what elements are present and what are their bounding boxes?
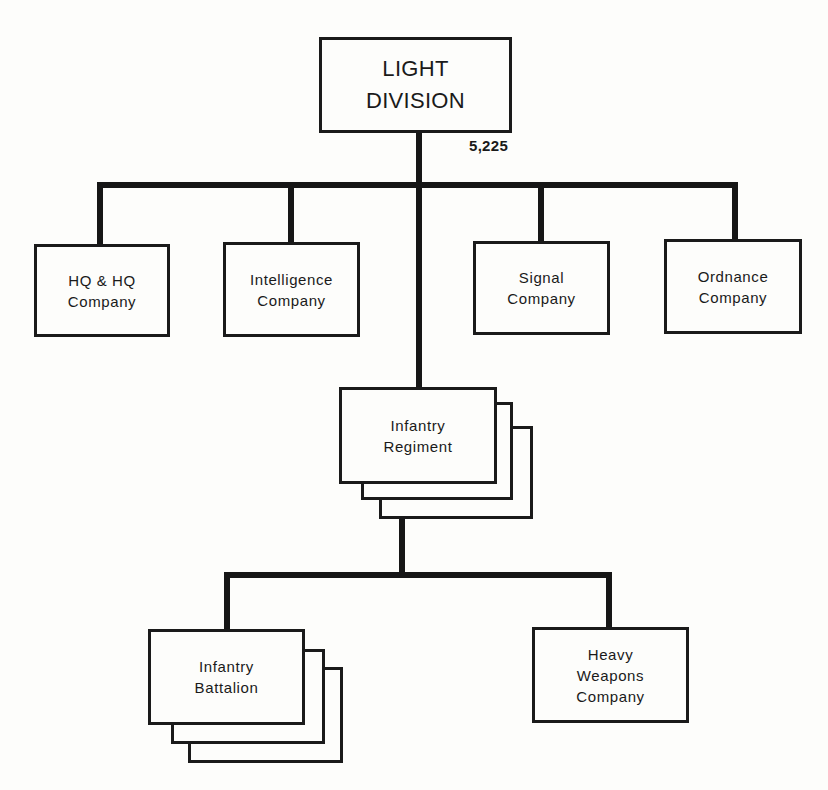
node-label: Infantry Regiment [384,415,453,457]
connector-heavy-weapons [606,572,612,629]
connector-regiment-down [399,518,405,576]
node-label: Heavy Weapons Company [576,644,644,707]
node-infantry-battalion: Infantry Battalion [148,629,305,725]
node-label: LIGHT DIVISION [366,53,465,117]
division-strength-label: 5,225 [469,137,508,154]
node-label: HQ & HQ Company [68,270,136,312]
node-hq-company: HQ & HQ Company [34,244,170,337]
node-label: Ordnance Company [698,266,769,308]
connector-top-bar [97,182,738,188]
connector-root-down [416,132,422,388]
connector-battalion [224,572,230,631]
node-label: Signal Company [507,267,575,309]
connector-hq [97,182,103,246]
node-label: Intelligence Company [250,269,333,311]
node-intelligence-company: Intelligence Company [223,242,360,337]
node-signal-company: Signal Company [473,241,610,335]
org-chart-canvas: LIGHT DIVISION 5,225 HQ & HQ Company Int… [0,0,828,790]
connector-intelligence [288,182,294,244]
connector-ordnance [732,182,738,241]
node-light-division: LIGHT DIVISION [319,37,512,133]
connector-bottom-bar [224,572,612,578]
node-label: Infantry Battalion [195,656,259,698]
node-heavy-weapons-company: Heavy Weapons Company [532,627,689,723]
node-ordnance-company: Ordnance Company [664,239,802,334]
node-infantry-regiment: Infantry Regiment [339,387,497,484]
connector-signal [538,182,544,243]
